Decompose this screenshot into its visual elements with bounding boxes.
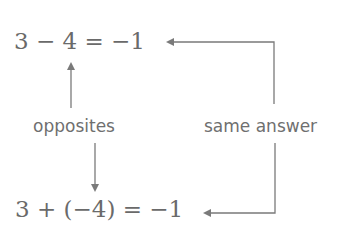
elbow-arrow-top-icon	[168, 42, 274, 104]
arrows-layer	[0, 0, 355, 232]
elbow-arrow-bottom-icon	[205, 143, 275, 213]
